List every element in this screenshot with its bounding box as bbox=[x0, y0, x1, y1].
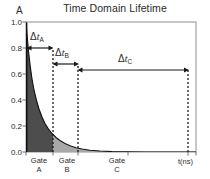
delta-t-a-label: ΔtA bbox=[30, 31, 44, 42]
delta-t-c-subscript: C bbox=[127, 58, 132, 65]
delta-t-b-subscript: B bbox=[64, 52, 68, 59]
gate-c-label-line2: C bbox=[102, 166, 132, 175]
delta-t-c-symbol: Δ bbox=[118, 53, 125, 64]
delta-t-a-symbol: Δ bbox=[30, 31, 37, 42]
x-axis-label: t(ns) bbox=[178, 157, 193, 166]
x-tick-label-gate-c: Gate C bbox=[102, 157, 132, 174]
x-axis-ticks bbox=[26, 152, 196, 156]
time-domain-lifetime-chart: Time Domain Lifetime A 1.0 0.8 0.6 0.4 0… bbox=[0, 0, 210, 179]
delta-t-c-label: ΔtC bbox=[118, 53, 132, 64]
gate-b-label-line2: B bbox=[52, 166, 82, 175]
x-tick-label-gate-a: Gate A bbox=[24, 157, 54, 174]
delta-t-b-label: ΔtB bbox=[55, 47, 69, 58]
plot-canvas bbox=[0, 0, 210, 179]
y-axis-ticks bbox=[23, 22, 27, 152]
gate-a-label-line2: A bbox=[24, 166, 54, 175]
delta-t-a-subscript: A bbox=[39, 36, 43, 43]
delta-t-b-symbol: Δ bbox=[55, 47, 62, 58]
x-tick-label-gate-b: Gate B bbox=[52, 157, 82, 174]
